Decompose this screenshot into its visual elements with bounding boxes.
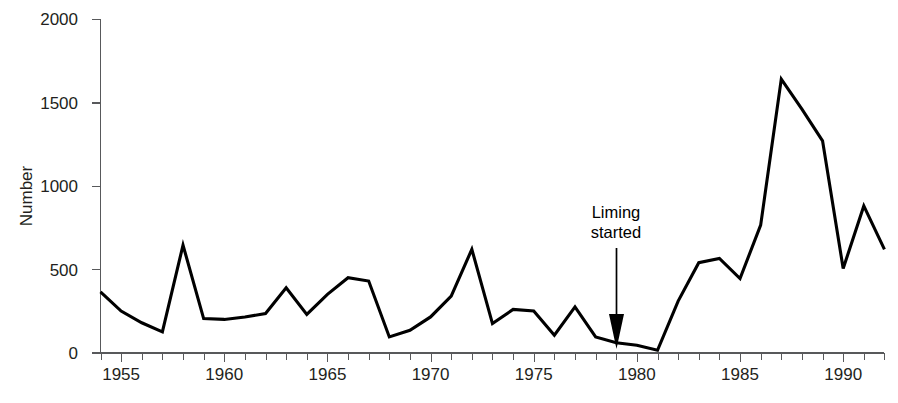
y-tick-label-1000: 1000 (40, 177, 78, 196)
line-chart-canvas: Number 2000 1500 1000 500 0 195519601965… (0, 0, 898, 403)
x-axis-ticks (102, 353, 885, 362)
x-tick-label-1990: 1990 (824, 365, 862, 384)
data-series-line (101, 79, 885, 350)
x-tick-label-1975: 1975 (515, 365, 553, 384)
y-axis-title: Number (17, 165, 36, 226)
y-tick-label-2000: 2000 (40, 10, 78, 29)
x-axis-tick-labels: 19551960196519701975198019851990 (102, 365, 862, 384)
x-tick-label-1970: 1970 (412, 365, 450, 384)
x-tick-label-1965: 1965 (309, 365, 347, 384)
chart-figure: Number 2000 1500 1000 500 0 195519601965… (0, 0, 898, 403)
y-tick-label-500: 500 (50, 261, 78, 280)
x-tick-label-1960: 1960 (205, 365, 243, 384)
x-tick-label-1980: 1980 (618, 365, 656, 384)
annotation-label-line2: started (591, 223, 641, 241)
y-tick-label-1500: 1500 (40, 94, 78, 113)
y-tick-label-0: 0 (69, 344, 78, 363)
x-tick-label-1955: 1955 (102, 365, 140, 384)
annotation-liming-started: Liming started (591, 203, 641, 349)
x-tick-label-1985: 1985 (721, 365, 759, 384)
annotation-label-line1: Liming (592, 203, 641, 221)
